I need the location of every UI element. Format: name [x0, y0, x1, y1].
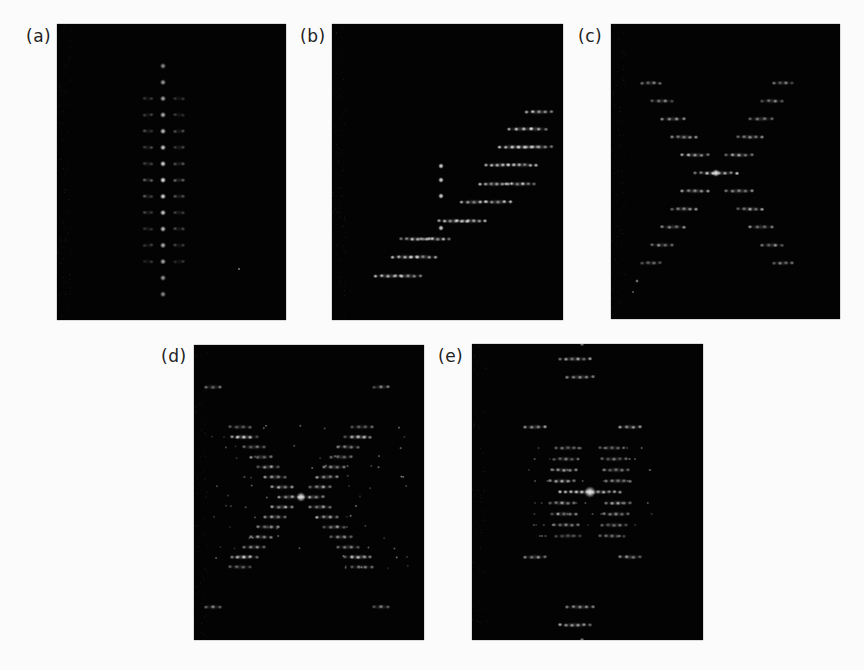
diffraction-panel-b	[332, 24, 563, 320]
panel-label-c: (c)	[578, 28, 602, 45]
diffraction-panel-e	[472, 344, 703, 640]
diffraction-pattern-x-cross-dense	[194, 345, 424, 640]
diffraction-pattern-x-cross	[611, 24, 840, 319]
panel-label-a: (a)	[26, 28, 51, 45]
diffraction-panel-c	[611, 24, 840, 319]
panel-label-e: (e)	[438, 348, 463, 365]
diffraction-pattern-diamond-star	[472, 344, 703, 640]
panel-label-d: (d)	[161, 348, 187, 365]
panel-label-b: (b)	[300, 28, 326, 45]
diffraction-pattern-vertical-line	[57, 24, 286, 320]
diffraction-panel-d	[194, 345, 424, 640]
diffraction-panel-a	[57, 24, 286, 320]
diffraction-pattern-diagonal-band	[332, 24, 563, 320]
